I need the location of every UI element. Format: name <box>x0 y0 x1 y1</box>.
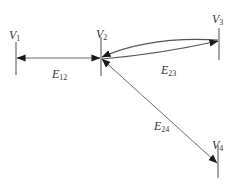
vertex-v4-label: V4 <box>212 138 223 153</box>
vertex-v1-label: V1 <box>9 28 20 43</box>
edge-e24 <box>102 59 217 163</box>
edge-e24-label: E24 <box>153 119 169 134</box>
edge-e23-label: E23 <box>160 63 176 78</box>
vertex-v3-label: V3 <box>212 12 223 27</box>
vertex-v2-label: V2 <box>96 27 107 42</box>
edge-e23-upper-arc <box>102 39 218 57</box>
edge-e12-label: E12 <box>51 67 67 82</box>
graph-diagram: V1 V2 V3 V4 E12 E23 E24 <box>0 0 238 184</box>
